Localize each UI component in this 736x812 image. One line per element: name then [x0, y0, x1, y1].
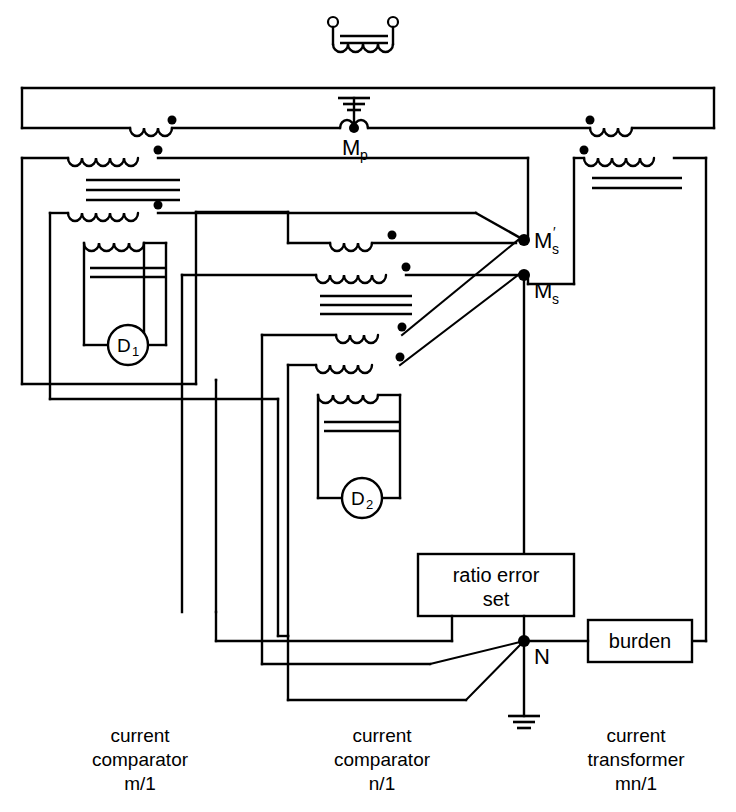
- caption-2-line1: current: [352, 725, 412, 746]
- bottom-captions: current comparator m/1 current comparato…: [92, 725, 685, 794]
- primary-busbar-loop: [22, 88, 714, 136]
- caption-2-line2: comparator: [334, 749, 431, 770]
- label-ms-prime: M: [534, 228, 552, 253]
- circuit-diagram-canvas: D 1: [0, 0, 736, 812]
- detector-d2-label: D: [351, 488, 365, 509]
- detector-d2-subscript: 2: [366, 497, 373, 512]
- caption-3-line3: mn/1: [615, 773, 657, 794]
- comparator-m-block: D 1: [22, 146, 528, 400]
- label-ms: M: [534, 278, 552, 303]
- caption-2-line3: n/1: [369, 773, 395, 794]
- supply-source-symbol: [328, 17, 398, 52]
- caption-1-line2: comparator: [92, 749, 189, 770]
- polarity-dot-n-winding2: [402, 263, 411, 272]
- return-diagonal-2: [466, 641, 524, 700]
- caption-1-line1: current: [110, 725, 170, 746]
- polarity-dot-ct-secondary: [580, 146, 589, 155]
- source-terminal-left-icon: [328, 17, 338, 27]
- node-n-group: [262, 635, 540, 728]
- ratio-error-set-line1: ratio error: [453, 564, 540, 586]
- secondary-node-group: [476, 158, 530, 554]
- ratio-error-set-line2: set: [483, 588, 510, 610]
- return-diagonal-1: [430, 641, 524, 664]
- source-terminal-right-icon: [388, 17, 398, 27]
- label-ms-prime-mark: ′: [553, 224, 556, 240]
- polarity-dot-n-winding1: [388, 231, 397, 240]
- label-mp-subscript: p: [360, 147, 368, 163]
- polarity-dot-n-winding3: [398, 323, 407, 332]
- ratio-error-set-box[interactable]: ratio error set: [216, 554, 574, 641]
- label-n: N: [534, 644, 550, 669]
- polarity-dot-primary-m: [168, 116, 177, 125]
- polarity-dot-m-winding1: [154, 146, 163, 155]
- detector-d1-subscript: 1: [132, 344, 139, 359]
- caption-1-line3: m/1: [124, 773, 156, 794]
- polarity-dot-m-winding2: [154, 201, 163, 210]
- caption-3-line1: current: [606, 725, 666, 746]
- polarity-dot-primary-mn: [586, 116, 595, 125]
- detector-d1-label: D: [117, 335, 131, 356]
- schematic-svg: D 1: [0, 0, 736, 812]
- label-ms-subscript: s: [552, 291, 559, 307]
- label-mp: M: [342, 135, 360, 160]
- polarity-dot-n-winding4: [396, 353, 405, 362]
- primary-injection-coil: [338, 98, 370, 133]
- label-ms-prime-subscript: s: [552, 241, 559, 257]
- burden-label: burden: [609, 630, 671, 652]
- caption-3-line2: transformer: [587, 749, 685, 770]
